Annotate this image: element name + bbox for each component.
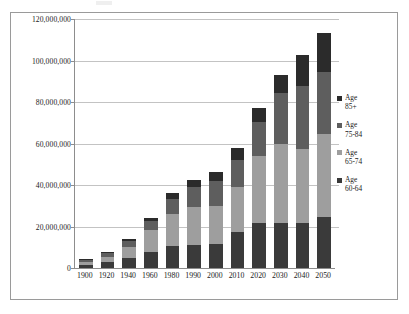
bar-stack[interactable] — [296, 55, 309, 268]
legend-label-line1: Age — [345, 175, 362, 184]
x-tick-label: 1900 — [77, 271, 93, 280]
bar-segment[interactable] — [166, 246, 179, 268]
legend-label: Age60-64 — [345, 175, 362, 193]
bar-segment[interactable] — [187, 207, 200, 244]
legend-swatch-icon — [337, 96, 342, 101]
bar-segment[interactable] — [317, 72, 330, 134]
bar-segment[interactable] — [101, 262, 114, 268]
bar-segment[interactable] — [296, 55, 309, 86]
bar-segment[interactable] — [252, 156, 265, 223]
x-tick-label: 1940 — [120, 271, 136, 280]
bar-segment[interactable] — [187, 245, 200, 268]
bar-segment[interactable] — [252, 108, 265, 121]
stacked-bar-chart: 020,000,00040,000,00060,000,00080,000,00… — [10, 12, 398, 300]
bar-segment[interactable] — [101, 252, 114, 253]
bar-segment[interactable] — [144, 230, 157, 253]
bar-segment[interactable] — [122, 241, 135, 247]
legend-item[interactable]: Age65-74 — [337, 148, 393, 166]
y-tick-mark — [71, 268, 75, 269]
x-tick-label: 1920 — [99, 271, 115, 280]
x-tick-label: 2020 — [250, 271, 266, 280]
plot-area — [74, 19, 335, 269]
bar-segment[interactable] — [209, 244, 222, 268]
bar-segment[interactable] — [317, 134, 330, 217]
y-axis: 020,000,00040,000,00060,000,00080,000,00… — [11, 13, 73, 299]
bar-stack[interactable] — [231, 148, 244, 268]
y-tick-label: 60,000,000 — [36, 139, 71, 148]
bar-segment[interactable] — [166, 214, 179, 246]
y-tick-mark-right — [335, 19, 339, 20]
legend-item[interactable]: Age60-64 — [337, 175, 393, 193]
bar-segment[interactable] — [122, 258, 135, 268]
x-tick-label: 2040 — [294, 271, 310, 280]
bar-segment[interactable] — [122, 239, 135, 241]
legend-item[interactable]: Age85+ — [337, 93, 393, 111]
legend-label-line2: 85+ — [345, 102, 357, 111]
scan-artifact — [96, 1, 112, 5]
bar-segment[interactable] — [209, 206, 222, 244]
x-tick-label: 1990 — [185, 271, 201, 280]
bar-stack[interactable] — [209, 172, 222, 268]
bar-segment[interactable] — [79, 260, 92, 262]
bar-segment[interactable] — [187, 180, 200, 186]
bar-stack[interactable] — [252, 108, 265, 268]
bar-segment[interactable] — [144, 221, 157, 229]
bar-segment[interactable] — [144, 218, 157, 221]
bar-segment[interactable] — [122, 247, 135, 258]
y-tick-label: 20,000,000 — [36, 222, 71, 231]
bar-segment[interactable] — [274, 75, 287, 93]
y-tick-label: 120,000,000 — [32, 15, 71, 24]
bar-segment[interactable] — [166, 193, 179, 198]
bars-layer — [75, 19, 335, 268]
x-axis: 1900192019401960198019902000201020202030… — [74, 271, 335, 289]
bar-stack[interactable] — [144, 218, 157, 268]
legend-swatch-icon — [337, 123, 342, 128]
y-tick-mark-right — [335, 61, 339, 62]
bar-segment[interactable] — [274, 144, 287, 224]
bar-segment[interactable] — [79, 262, 92, 265]
legend-label: Age75-84 — [345, 120, 362, 138]
bar-segment[interactable] — [274, 223, 287, 268]
legend-label: Age85+ — [345, 93, 357, 111]
bar-segment[interactable] — [317, 33, 330, 72]
bar-segment[interactable] — [296, 86, 309, 148]
y-tick-mark-right — [335, 227, 339, 228]
x-tick-label: 2000 — [207, 271, 223, 280]
legend-swatch-icon — [337, 150, 342, 155]
bar-stack[interactable] — [317, 33, 330, 269]
bar-stack[interactable] — [166, 193, 179, 268]
bar-stack[interactable] — [187, 180, 200, 268]
bar-stack[interactable] — [122, 239, 135, 268]
bar-segment[interactable] — [252, 223, 265, 268]
bar-segment[interactable] — [231, 187, 244, 232]
bar-segment[interactable] — [101, 253, 114, 257]
bar-segment[interactable] — [296, 149, 309, 224]
bar-segment[interactable] — [209, 181, 222, 206]
bar-segment[interactable] — [296, 223, 309, 268]
bar-segment[interactable] — [144, 252, 157, 268]
legend-item[interactable]: Age75-84 — [337, 120, 393, 138]
x-tick-label: 1980 — [164, 271, 180, 280]
bar-segment[interactable] — [274, 93, 287, 144]
bar-segment[interactable] — [231, 160, 244, 187]
legend-label: Age65-74 — [345, 148, 362, 166]
y-tick-label: 40,000,000 — [36, 181, 71, 190]
bar-segment[interactable] — [79, 265, 92, 268]
bar-stack[interactable] — [79, 259, 92, 268]
legend-label-line1: Age — [345, 93, 357, 102]
bar-segment[interactable] — [209, 172, 222, 181]
bar-segment[interactable] — [166, 199, 179, 215]
bar-segment[interactable] — [317, 217, 330, 268]
x-tick-label: 2050 — [315, 271, 331, 280]
bar-segment[interactable] — [187, 187, 200, 208]
bar-segment[interactable] — [252, 122, 265, 156]
bar-segment[interactable] — [231, 148, 244, 160]
bar-segment[interactable] — [79, 259, 92, 260]
bar-stack[interactable] — [274, 75, 287, 268]
bar-segment[interactable] — [101, 257, 114, 262]
bar-segment[interactable] — [231, 232, 244, 268]
legend-label-line2: 75-84 — [345, 130, 362, 139]
y-tick-label: 100,000,000 — [32, 56, 71, 65]
legend-label-line1: Age — [345, 120, 362, 129]
bar-stack[interactable] — [101, 252, 114, 268]
